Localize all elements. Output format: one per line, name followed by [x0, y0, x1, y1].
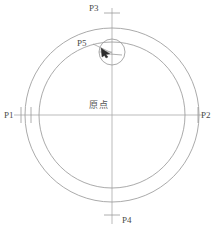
label-p5: P5	[77, 38, 87, 48]
label-p4: P4	[122, 215, 132, 225]
label-origin: 原点	[89, 100, 108, 110]
pointer-arrow-icon	[101, 48, 110, 58]
diagram-svg	[0, 0, 217, 232]
label-p1: P1	[4, 110, 14, 120]
label-p3: P3	[89, 3, 99, 13]
label-p2: P2	[201, 110, 211, 120]
figure-canvas: P1 P2 P3 P4 P5 原点	[0, 0, 217, 232]
